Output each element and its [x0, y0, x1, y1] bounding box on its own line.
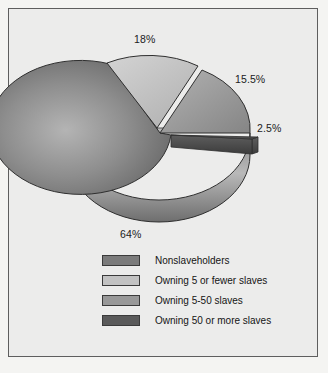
- legend-label: Owning 5 or fewer slaves: [155, 275, 267, 286]
- legend-swatch-icon: [102, 315, 140, 326]
- legend-swatch-icon: [102, 295, 140, 306]
- pie-chart-figure: 18% 15.5% 2.5% 64% Nonslaveholders Ownin…: [0, 0, 328, 373]
- legend-swatch-icon: [102, 255, 140, 266]
- legend-item-nonslaveholders: Nonslaveholders: [102, 250, 282, 270]
- slice-label-15-5-percent: 15.5%: [235, 73, 265, 85]
- slice-label-2-5-percent: 2.5%: [257, 122, 281, 134]
- legend-label: Nonslaveholders: [155, 255, 230, 266]
- chart-legend: Nonslaveholders Owning 5 or fewer slaves…: [102, 250, 282, 330]
- legend-label: Owning 50 or more slaves: [155, 315, 271, 326]
- slice-label-64-percent: 64%: [120, 228, 141, 240]
- legend-item-50-or-more: Owning 50 or more slaves: [102, 310, 282, 330]
- legend-item-5-to-50: Owning 5-50 slaves: [102, 290, 282, 310]
- legend-swatch-icon: [102, 275, 140, 286]
- legend-label: Owning 5-50 slaves: [155, 295, 243, 306]
- legend-item-5-or-fewer: Owning 5 or fewer slaves: [102, 270, 282, 290]
- slice-label-18-percent: 18%: [134, 33, 155, 45]
